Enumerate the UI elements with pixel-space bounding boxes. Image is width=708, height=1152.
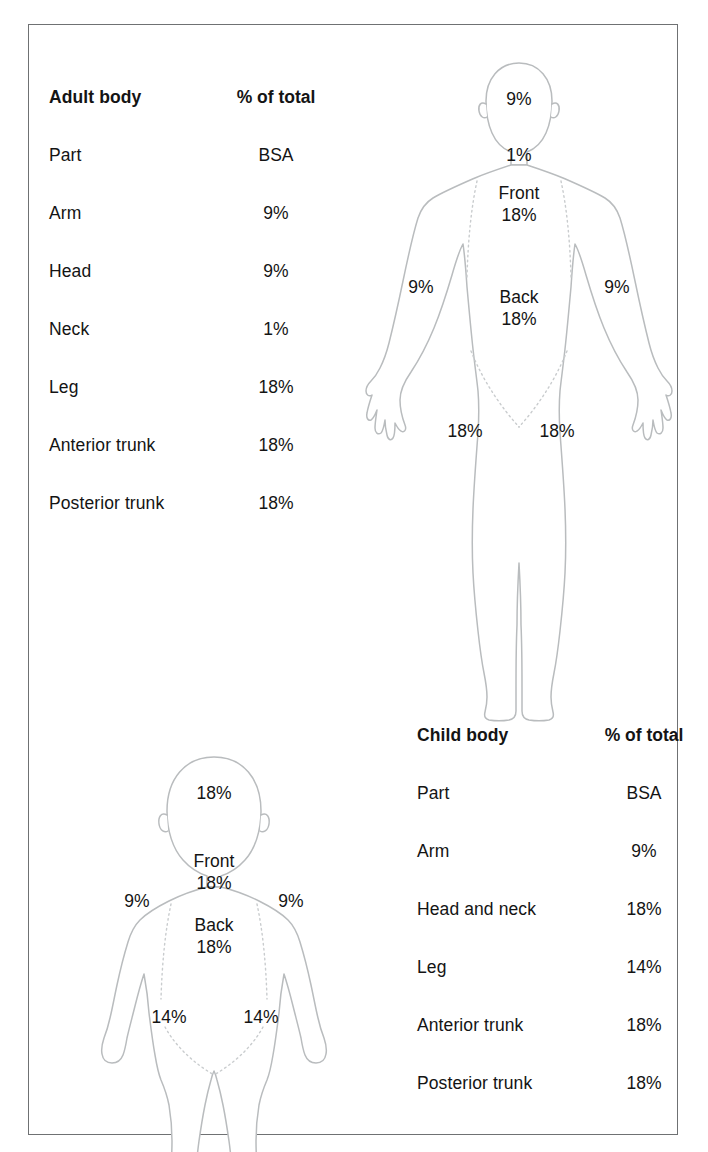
child-part-label: Posterior trunk [417, 1073, 532, 1094]
adult-front-title: Front [499, 183, 540, 204]
child-bsa-value: 18% [585, 899, 703, 920]
table-row: Posterior trunk 18% [49, 493, 349, 515]
child-right-arm-label: 9% [278, 891, 303, 912]
table-row: Arm 9% [417, 841, 708, 863]
adult-part-label: Head [49, 261, 91, 282]
child-front-value: 18% [196, 873, 231, 894]
child-bsa-value: 18% [585, 1073, 703, 1094]
table-row: Head 9% [49, 261, 349, 283]
adult-part-label: Arm [49, 203, 81, 224]
child-left-leg-label: 14% [151, 1007, 186, 1028]
child-right-leg-label: 14% [243, 1007, 278, 1028]
child-bsa-column-header: BSA [585, 783, 703, 804]
diagram-frame: Adult body % of total Part BSA Arm 9% He… [28, 24, 678, 1135]
adult-bsa-value: 18% [217, 377, 335, 398]
table-row: Leg 18% [49, 377, 349, 399]
adult-back-title: Back [500, 287, 539, 308]
table-row: Posterior trunk 18% [417, 1073, 708, 1095]
adult-head-label: 9% [506, 89, 531, 110]
adult-bsa-value: 1% [217, 319, 335, 340]
child-bsa-value: 9% [585, 841, 703, 862]
child-part-label: Leg [417, 957, 447, 978]
adult-bsa-value: 18% [217, 493, 335, 514]
table-row: Leg 14% [417, 957, 708, 979]
table-row: Neck 1% [49, 319, 349, 341]
table-subheader-row: Part BSA [417, 783, 708, 805]
table-row: Anterior trunk 18% [417, 1015, 708, 1037]
table-row: Anterior trunk 18% [49, 435, 349, 457]
table-row: Head and neck 18% [417, 899, 708, 921]
child-bsa-value: 14% [585, 957, 703, 978]
table-header-row: Adult body % of total [49, 87, 349, 109]
adult-right-arm-label: 9% [604, 277, 629, 298]
child-back-value: 18% [196, 937, 231, 958]
adult-part-label: Neck [49, 319, 89, 340]
child-left-arm-label: 9% [124, 891, 149, 912]
adult-part-label: Anterior trunk [49, 435, 155, 456]
child-front-title: Front [194, 851, 235, 872]
child-head-label: 18% [196, 783, 231, 804]
child-bsa-value: 18% [585, 1015, 703, 1036]
adult-bsa-column-header: BSA [217, 145, 335, 166]
table-row: Arm 9% [49, 203, 349, 225]
adult-table-metric-header: % of total [217, 87, 335, 108]
adult-back-value: 18% [501, 309, 536, 330]
adult-part-label: Posterior trunk [49, 493, 164, 514]
adult-table-title: Adult body [49, 87, 141, 108]
table-subheader-row: Part BSA [49, 145, 349, 167]
adult-part-column-header: Part [49, 145, 82, 166]
adult-right-leg-label: 18% [539, 421, 574, 442]
child-back-title: Back [195, 915, 234, 936]
child-part-label: Arm [417, 841, 449, 862]
adult-bsa-value: 18% [217, 435, 335, 456]
child-part-label: Anterior trunk [417, 1015, 523, 1036]
adult-left-leg-label: 18% [447, 421, 482, 442]
adult-left-arm-label: 9% [408, 277, 433, 298]
adult-neck-label: 1% [506, 145, 531, 166]
adult-body-diagram [359, 29, 679, 729]
adult-front-value: 18% [501, 205, 536, 226]
child-part-column-header: Part [417, 783, 450, 804]
adult-bsa-value: 9% [217, 261, 335, 282]
child-part-label: Head and neck [417, 899, 536, 920]
adult-part-label: Leg [49, 377, 79, 398]
adult-bsa-value: 9% [217, 203, 335, 224]
